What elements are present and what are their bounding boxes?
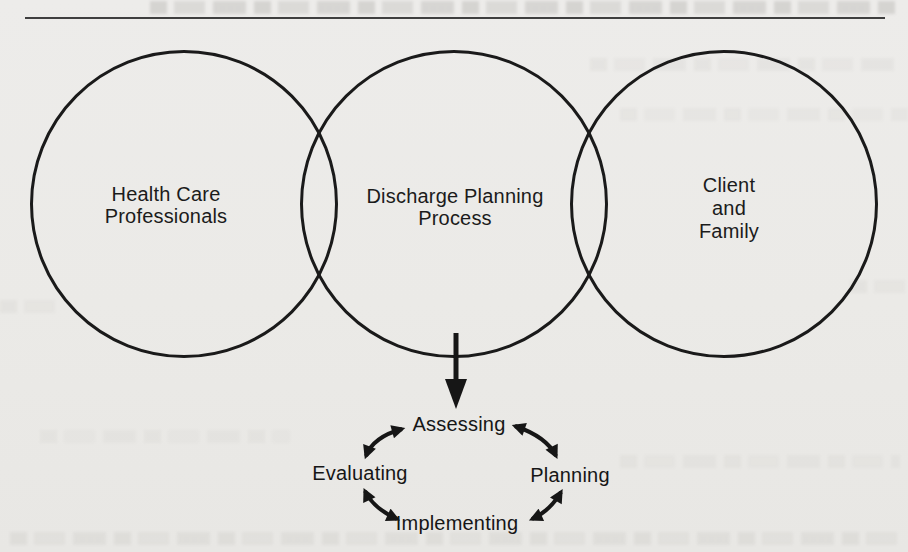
double-arrow-evaluating-implementing-icon	[365, 491, 397, 519]
bleed-through-texture	[40, 430, 290, 443]
bleed-through-texture	[620, 455, 900, 468]
bleed-through-texture	[850, 280, 908, 293]
double-arrow-evaluating-assessing-icon	[366, 429, 402, 456]
double-arrow-assessing-planning-icon	[515, 426, 556, 456]
cycle-step-implementing: Implementing	[396, 512, 518, 535]
bleed-through-texture	[0, 300, 55, 313]
top-rule-divider	[25, 17, 885, 19]
bleed-through-texture	[150, 1, 900, 14]
scanned-page: Health Care Professionals Discharge Plan…	[0, 0, 908, 552]
cycle-step-assessing: Assessing	[413, 413, 506, 436]
circle-label-client-and-family: Client and Family	[699, 174, 759, 243]
circle-label-discharge-planning-process: Discharge Planning Process	[366, 185, 543, 229]
double-arrow-implementing-planning-icon	[532, 492, 561, 519]
circle-label-health-care-professionals: Health Care Professionals	[105, 183, 228, 227]
cycle-step-planning: Planning	[530, 464, 609, 487]
cycle-step-evaluating: Evaluating	[312, 462, 407, 485]
